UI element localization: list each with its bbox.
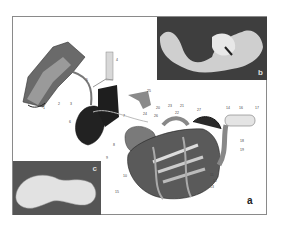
callout-label: 6 [69, 121, 71, 125]
callout-label: 2 [58, 103, 60, 107]
callout-label: 1 [43, 107, 45, 111]
callout-label: 21 [180, 105, 184, 109]
callout-label: 17 [255, 107, 259, 111]
callout-label: 16 [239, 107, 243, 111]
callout-label: 12 [213, 180, 217, 184]
callout-label: 5 [86, 79, 88, 83]
callout-label: 19 [240, 149, 244, 153]
panel-c-photo: c [13, 161, 101, 215]
panel-b-letter: b [258, 68, 263, 77]
panel-a-letter: a [247, 195, 253, 206]
callout-label: 23 [168, 105, 172, 109]
callout-label: 10 [123, 175, 127, 179]
callout-label: 3 [70, 103, 72, 107]
callout-label: 26 [154, 115, 158, 119]
callout-label: 4 [116, 59, 118, 63]
panel-b-photo: b [157, 17, 267, 80]
callout-label: 20 [156, 107, 160, 111]
figure-frame: b c 4 5 1 2 3 6 7 8 9 10 11 12 13 14 16 … [12, 16, 267, 215]
callout-label: 9 [106, 157, 108, 161]
callout-label: 7 [123, 115, 125, 119]
callout-label: 14 [226, 107, 230, 111]
callout-label: 13 [210, 186, 214, 190]
callout-label: 27 [197, 109, 201, 113]
callout-label: 22 [175, 112, 179, 116]
callout-label: 15 [115, 191, 119, 195]
callout-label: 11 [210, 174, 214, 178]
callout-label: 8 [113, 144, 115, 148]
callout-label: 24 [143, 113, 147, 117]
panel-c-letter: c [93, 164, 97, 173]
callout-label: 25 [147, 90, 151, 94]
callout-label: 18 [240, 140, 244, 144]
